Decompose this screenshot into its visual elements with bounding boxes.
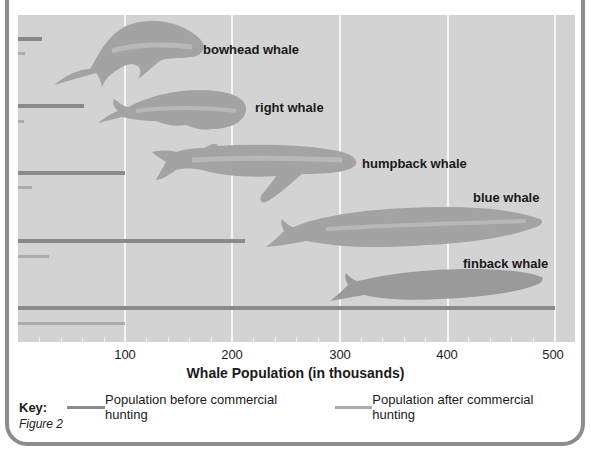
bar-blue-after	[18, 255, 49, 258]
tick	[275, 337, 276, 342]
legend-swatch-after	[335, 406, 373, 409]
x-tick-label-300: 300	[329, 347, 351, 362]
tick	[39, 337, 40, 342]
bar-humpback-after	[18, 186, 32, 189]
tick	[253, 337, 254, 342]
tick	[490, 337, 491, 342]
bowhead-whale-illustration	[52, 17, 212, 92]
x-tick-label-200: 200	[221, 347, 243, 362]
tick	[425, 337, 426, 342]
tick	[318, 337, 319, 342]
legend-title: Key:	[19, 400, 47, 415]
tick	[533, 337, 534, 342]
blue-whale-illustration	[266, 203, 546, 251]
tick	[146, 337, 147, 342]
whale-label-bowhead: bowhead whale	[203, 42, 299, 57]
legend-label-after: Population after commercial hunting	[372, 392, 579, 422]
tick	[168, 337, 169, 342]
x-tick-label-100: 100	[114, 347, 136, 362]
tick	[511, 337, 512, 342]
tick	[382, 337, 383, 342]
bar-blue-before	[18, 239, 245, 243]
x-axis-title: Whale Population (in thousands)	[0, 365, 591, 381]
whale-label-right: right whale	[255, 100, 324, 115]
bar-finback-before	[18, 306, 555, 310]
bar-humpback-before	[18, 171, 125, 175]
tick	[361, 337, 362, 342]
x-tick-label-500: 500	[542, 347, 564, 362]
legend-swatch-before	[67, 406, 105, 409]
legend-item-before: Population before commercial hunting	[67, 392, 322, 422]
legend-item-after: Population after commercial hunting	[335, 392, 580, 422]
bar-right-after	[18, 120, 24, 123]
legend-label-before: Population before commercial hunting	[105, 392, 322, 422]
whale-label-finback: finback whale	[463, 256, 548, 271]
gridline-500	[554, 15, 556, 342]
bar-finback-after	[18, 322, 125, 325]
bar-bowhead-after	[18, 52, 25, 55]
bar-bowhead-before	[18, 37, 42, 41]
tick	[404, 337, 405, 342]
legend: Key: Population before commercial huntin…	[19, 392, 591, 422]
tick	[211, 337, 212, 342]
whale-label-humpback: humpback whale	[362, 156, 467, 171]
x-tick-label-400: 400	[436, 347, 458, 362]
chart-plot-area: bowhead whale right whale humpback whale…	[18, 15, 575, 342]
tick	[468, 337, 469, 342]
humpback-whale-illustration	[152, 140, 362, 206]
bar-right-before	[18, 104, 84, 108]
figure-caption: Figure 2	[19, 417, 63, 431]
tick	[104, 337, 105, 342]
tick	[296, 337, 297, 342]
tick	[61, 337, 62, 342]
tick	[82, 337, 83, 342]
tick	[189, 337, 190, 342]
right-whale-illustration	[96, 85, 251, 135]
whale-label-blue: blue whale	[473, 190, 539, 205]
